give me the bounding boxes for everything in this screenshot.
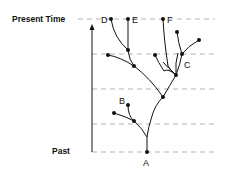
phylogenetic-tree-diagram: A B C D E F [0,0,226,171]
node-internal [132,64,136,68]
node-d [109,17,113,21]
time-axis [90,24,95,152]
label-c: C [184,60,191,70]
arrow-up-icon [90,24,95,30]
node-b-parent [132,119,136,123]
node-tip [197,38,201,42]
label-b: B [119,96,125,106]
node-e [126,17,130,21]
node-a [145,150,149,154]
node-tip [153,53,157,57]
node-b [126,103,130,107]
label-e: E [132,15,138,25]
node-tip [106,53,110,57]
node-internal [161,95,165,99]
node-internal [126,48,130,52]
label-d: D [101,15,108,25]
tree-nodes [106,17,201,154]
label-a: A [143,158,149,168]
time-gridlines [78,19,215,152]
tree-branches [108,19,199,152]
node-f [161,17,165,21]
node-tip [112,111,116,115]
label-f: F [167,15,173,25]
node-c [180,52,184,56]
node-internal [174,73,178,77]
node-tip [175,30,179,34]
